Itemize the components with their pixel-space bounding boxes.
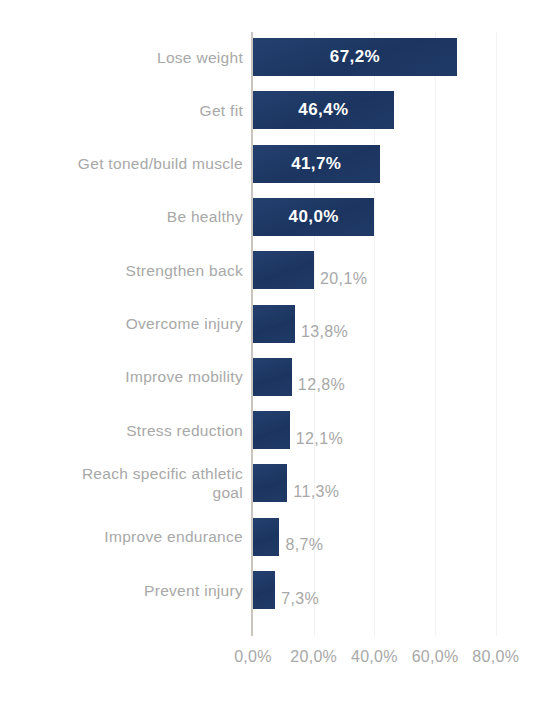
bar[interactable] — [253, 358, 292, 396]
x-tick-label: 60,0% — [412, 648, 459, 666]
category-label: Reach specific athletic goal — [18, 464, 243, 502]
bar-data-label: 7,3% — [281, 590, 319, 608]
bar[interactable] — [253, 411, 290, 449]
bar-row: Overcome injury13,8% — [0, 305, 533, 343]
bar-row: Reach specific athletic goal11,3% — [0, 464, 533, 502]
horizontal-bar-chart: Lose weight67,2%Get fit46,4%Get toned/bu… — [0, 0, 533, 706]
bar-data-label: 46,4% — [298, 100, 348, 120]
x-axis-tick-labels: 0,0%20,0%40,0%60,0%80,0% — [0, 648, 533, 676]
x-tick-label: 40,0% — [351, 648, 398, 666]
bar-data-label: 12,8% — [298, 376, 345, 394]
bar[interactable] — [253, 464, 287, 502]
bar-data-label: 12,1% — [296, 430, 343, 448]
bar-row: Improve endurance8,7% — [0, 518, 533, 556]
bar-data-label: 8,7% — [285, 536, 323, 554]
category-label: Strengthen back — [18, 261, 243, 280]
bar-row: Be healthy40,0% — [0, 198, 533, 236]
bar-row: Prevent injury7,3% — [0, 571, 533, 609]
bar[interactable] — [253, 518, 279, 556]
bar-data-label: 11,3% — [293, 483, 339, 501]
bar-row: Lose weight67,2% — [0, 38, 533, 76]
category-label: Stress reduction — [18, 421, 243, 440]
category-label: Get fit — [18, 101, 243, 120]
bar-row: Strengthen back20,1% — [0, 251, 533, 289]
bar-data-label: 67,2% — [330, 47, 380, 67]
category-label: Get toned/build muscle — [18, 154, 243, 173]
bar-row: Stress reduction12,1% — [0, 411, 533, 449]
bar[interactable] — [253, 571, 275, 609]
bar-data-label: 40,0% — [289, 207, 339, 227]
bar-row: Get toned/build muscle41,7% — [0, 145, 533, 183]
category-label: Prevent injury — [18, 581, 243, 600]
category-label: Overcome injury — [18, 314, 243, 333]
bar-data-label: 20,1% — [320, 270, 367, 288]
bar[interactable] — [253, 251, 314, 289]
category-label: Improve mobility — [18, 367, 243, 386]
bar-data-label: 41,7% — [291, 154, 341, 174]
bar[interactable] — [253, 305, 295, 343]
x-tick-label: 20,0% — [290, 648, 337, 666]
bar-data-label: 13,8% — [301, 323, 348, 341]
category-label: Lose weight — [18, 48, 243, 67]
category-label: Improve endurance — [18, 527, 243, 546]
bar-row: Improve mobility12,8% — [0, 358, 533, 396]
category-label: Be healthy — [18, 207, 243, 226]
bar-row: Get fit46,4% — [0, 91, 533, 129]
x-tick-label: 80,0% — [472, 648, 519, 666]
x-tick-label: 0,0% — [234, 648, 272, 666]
